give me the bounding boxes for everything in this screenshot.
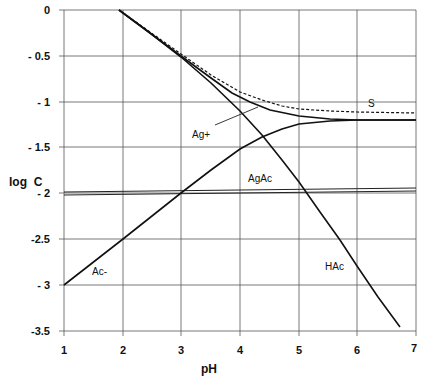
x-axis-label: pH xyxy=(201,362,217,376)
y-tick-labels: 0 - 0.5 - 1 - 1.5 - 2 -2.5 - 3 -3.5 xyxy=(28,4,50,337)
label-ag: Ag+ xyxy=(192,129,210,140)
svg-text:1: 1 xyxy=(61,344,67,356)
svg-text:0: 0 xyxy=(44,4,50,16)
svg-text:6: 6 xyxy=(354,344,360,356)
svg-text:-3.5: -3.5 xyxy=(31,325,50,337)
svg-text:- 3: - 3 xyxy=(37,279,50,291)
log-c-ph-chart: S Ag+ AgAc Ac- HAc 0 - 0.5 - 1 - 1.5 - 2… xyxy=(0,0,426,378)
ag-leader-line xyxy=(215,107,258,125)
y-axis-label: log C xyxy=(9,175,43,189)
svg-text:7: 7 xyxy=(411,342,417,354)
series-hac xyxy=(119,10,400,327)
svg-text:5: 5 xyxy=(296,344,302,356)
svg-text:4: 4 xyxy=(237,344,244,356)
svg-text:- 1: - 1 xyxy=(37,96,50,108)
svg-text:2: 2 xyxy=(120,344,126,356)
label-ac: Ac- xyxy=(92,266,107,277)
grid xyxy=(59,10,416,336)
svg-text:- 1.5: - 1.5 xyxy=(28,141,50,153)
svg-text:- 0.5: - 0.5 xyxy=(28,50,50,62)
svg-text:-2.5: -2.5 xyxy=(31,233,50,245)
label-agac: AgAc xyxy=(248,173,272,184)
x-tick-labels: 1 2 3 4 5 6 7 xyxy=(61,342,417,356)
svg-text:3: 3 xyxy=(178,344,184,356)
label-hac: HAc xyxy=(325,261,344,272)
label-s: S xyxy=(368,98,375,109)
